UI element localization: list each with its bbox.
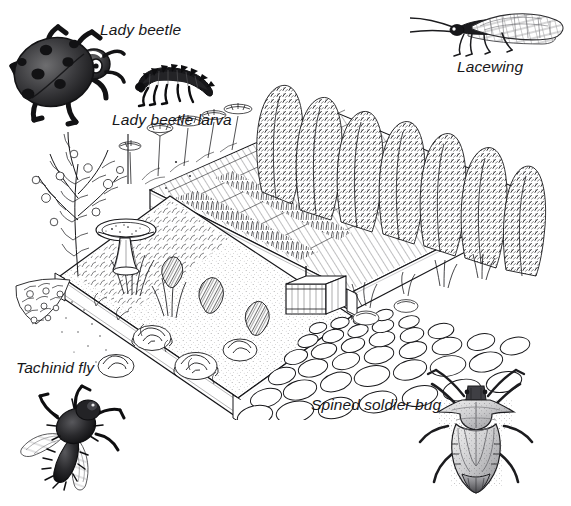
front-bed-plantings (70, 200, 269, 384)
raised-bed-back (150, 110, 540, 316)
tachinid-fly-illustration (18, 382, 134, 502)
label-lacewing: Lacewing (457, 59, 523, 75)
lady-beetle-spots (17, 40, 79, 100)
back-bed-onion-rows (175, 150, 396, 260)
insect-specks (165, 161, 191, 189)
path-edge-plants (352, 254, 495, 325)
label-spined-soldier-bug: Spined soldier bug (311, 397, 441, 413)
chive-clumps (111, 251, 186, 318)
label-lady-beetle-larva: Lady beetle larva (112, 112, 232, 128)
left-soil-stipple (61, 301, 106, 362)
lettuce-heads (98, 326, 257, 380)
birdbath (96, 219, 156, 275)
label-lady-beetle: Lady beetle (100, 22, 181, 38)
label-tachinid-fly: Tachinid fly (16, 360, 94, 376)
lady-beetle-larva-illustration (130, 60, 220, 112)
flowering-shrub (32, 132, 127, 276)
planter-box (286, 266, 346, 314)
garden-beneficial-insects-figure: Lady beetle Lady beetle larva Lacewing T… (0, 0, 571, 506)
lacewing-illustration (410, 4, 570, 62)
chard-plants (162, 257, 270, 336)
back-bed-crop-rows (168, 110, 463, 256)
raised-bed-front (55, 196, 352, 420)
ground-cover (16, 279, 70, 324)
trellis-vines (257, 85, 546, 276)
spined-soldier-bug-illustration (408, 362, 543, 500)
